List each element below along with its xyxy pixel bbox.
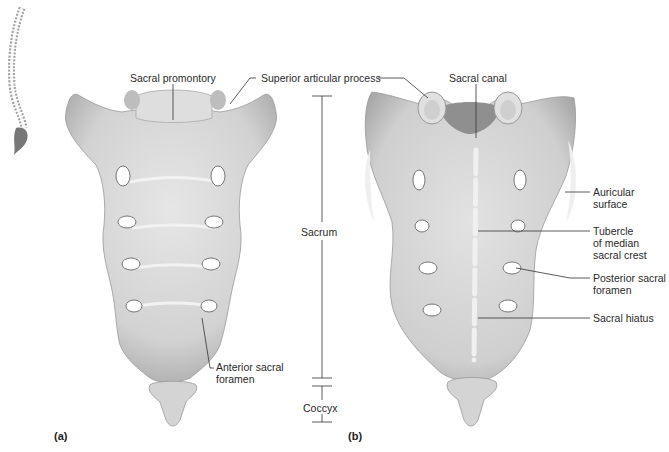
panel-label-a: (a) bbox=[54, 430, 67, 442]
label-sacrum: Sacrum bbox=[301, 226, 337, 238]
label-anterior-sacral-foramen: Anterior sacral foramen bbox=[216, 361, 284, 385]
label-posterior-sacral-foramen: Posterior sacral foramen bbox=[593, 272, 666, 296]
label-line-2: surface bbox=[593, 198, 634, 210]
label-line-2: foramen bbox=[216, 373, 284, 385]
label-auricular-surface: Auricular surface bbox=[593, 186, 634, 210]
label-line-2: of median bbox=[593, 237, 647, 249]
posterior-sacrum-illustration bbox=[365, 92, 576, 426]
label-superior-articular-process: Superior articular process bbox=[261, 72, 381, 84]
label-tubercle-median-sacral-crest: Tubercle of median sacral crest bbox=[593, 225, 647, 261]
panel-label-b: (b) bbox=[348, 430, 362, 442]
label-sacral-hiatus: Sacral hiatus bbox=[593, 312, 654, 324]
label-sacral-promontory: Sacral promontory bbox=[130, 72, 216, 84]
label-line-3: sacral crest bbox=[593, 249, 647, 261]
label-line-1: Anterior sacral bbox=[216, 361, 284, 373]
label-coccyx: Coccyx bbox=[303, 402, 337, 414]
label-line-1: Tubercle bbox=[593, 225, 647, 237]
label-line-1: Auricular bbox=[593, 186, 634, 198]
label-sacral-canal: Sacral canal bbox=[449, 72, 507, 84]
label-line-2: foramen bbox=[593, 284, 666, 296]
spine-thumbnail-icon bbox=[11, 8, 27, 155]
label-line-1: Posterior sacral bbox=[593, 272, 666, 284]
